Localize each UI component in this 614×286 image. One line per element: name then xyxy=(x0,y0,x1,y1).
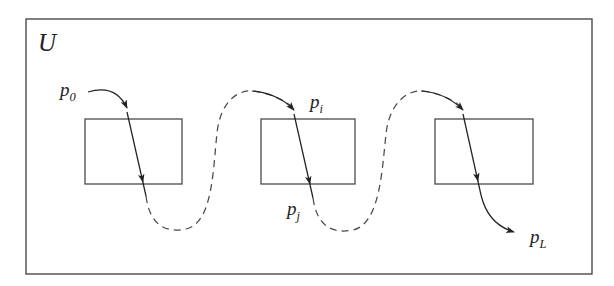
pL-subscript: L xyxy=(539,237,547,251)
crossing-segment-3 xyxy=(463,114,481,195)
point-label-pj: pj xyxy=(285,198,301,223)
dashed-loop-2 xyxy=(313,91,463,231)
p0-subscript: 0 xyxy=(70,90,77,104)
pi-subscript: i xyxy=(320,102,324,116)
dashed-loop-1 xyxy=(146,91,294,230)
region-box-3 xyxy=(435,119,533,184)
p0-base: p xyxy=(58,79,70,100)
svg-text:pj: pj xyxy=(285,198,301,223)
exit-curve xyxy=(481,195,514,232)
svg-text:pL: pL xyxy=(528,226,547,251)
point-label-p0: p0 xyxy=(58,79,77,104)
crossing-segment-2 xyxy=(294,114,313,198)
diagram-canvas: U p0 p xyxy=(0,0,614,286)
pi-base: p xyxy=(308,91,320,112)
entry-curve-2 xyxy=(252,91,294,110)
entry-curve-3 xyxy=(421,91,463,110)
entry-curve-1 xyxy=(88,90,127,108)
point-label-pL: pL xyxy=(528,226,547,251)
pj-base: p xyxy=(285,198,297,219)
figure-container: U p0 p xyxy=(0,0,614,286)
region-box-1 xyxy=(85,119,182,184)
svg-text:p0: p0 xyxy=(58,79,77,104)
svg-text:pi: pi xyxy=(308,91,324,116)
point-label-pi: pi xyxy=(308,91,324,116)
outer-region-boundary xyxy=(26,19,592,274)
pL-base: p xyxy=(528,226,540,247)
outer-region-label: U xyxy=(38,29,58,56)
